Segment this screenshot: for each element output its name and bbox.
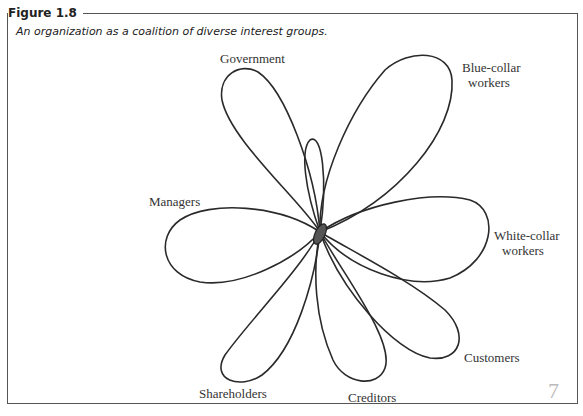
label-customers: Customers	[464, 350, 520, 365]
figure-number: Figure 1.8	[8, 6, 83, 20]
label-blue-collar-2: workers	[468, 75, 510, 90]
coalition-petal-diagram: Government Blue-collar workers Managers …	[0, 0, 583, 416]
label-white-collar-1: White-collar	[494, 228, 560, 243]
petal-creditors	[316, 232, 386, 381]
petal-blue-collar	[320, 55, 452, 232]
label-managers: Managers	[149, 194, 200, 209]
petal-managers	[165, 208, 320, 283]
petal-customers	[320, 232, 459, 358]
petal-white-collar	[320, 197, 489, 282]
petal-shareholders	[221, 232, 320, 382]
label-blue-collar-1: Blue-collar	[462, 60, 521, 75]
label-shareholders: Shareholders	[199, 386, 267, 401]
label-government: Government	[220, 51, 285, 66]
label-creditors: Creditors	[348, 390, 396, 405]
label-white-collar-2: workers	[502, 243, 544, 258]
margin-mark: 7	[548, 378, 559, 404]
